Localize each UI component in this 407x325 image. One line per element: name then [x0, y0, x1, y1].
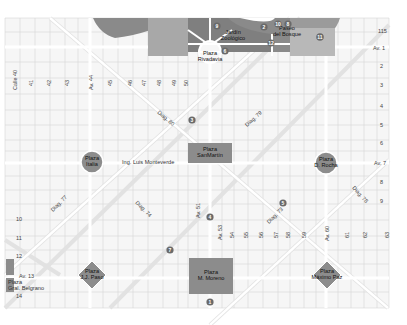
plaza-belgrano-shape	[6, 259, 14, 275]
street-4: 4	[380, 103, 383, 109]
ing-luis-monteverde-label: Ing. Luis Monteverde	[122, 159, 174, 165]
street-58: 58	[285, 232, 291, 238]
svg-text:3: 3	[191, 117, 194, 123]
street-62: 62	[362, 232, 368, 238]
svg-text:4: 4	[209, 214, 212, 220]
street-49: 49	[171, 80, 177, 86]
svg-text:11: 11	[317, 34, 323, 40]
street-10: 10	[16, 216, 22, 222]
street-45: 45	[107, 80, 113, 86]
street-9: 9	[380, 198, 383, 204]
svg-text:12: 12	[268, 40, 274, 46]
svg-text:5: 5	[282, 200, 285, 206]
marker-12[interactable]: 12	[267, 39, 274, 46]
street-av-51: Av. 51	[195, 203, 201, 218]
street-56: 56	[258, 232, 264, 238]
marker-11[interactable]: 11	[316, 33, 324, 41]
street-54: 54	[229, 232, 235, 238]
street-11: 11	[16, 235, 22, 241]
marker-7[interactable]: 7	[166, 246, 173, 253]
street-14: 14	[16, 293, 22, 299]
street-2: 2	[380, 63, 383, 69]
street-av-44: Av. 44	[88, 75, 94, 90]
marker-8[interactable]: 8	[284, 20, 291, 27]
street-calle-40: Calle 40	[12, 70, 18, 90]
marker-6[interactable]: 6	[221, 47, 228, 54]
street-av-53: Av. 53	[217, 225, 223, 240]
street-57: 57	[273, 232, 279, 238]
marker-3[interactable]: 3	[188, 116, 195, 123]
street-6: 6	[380, 140, 383, 146]
street-3: 3	[380, 82, 383, 88]
svg-text:7: 7	[169, 247, 172, 253]
street-115: 115	[378, 28, 387, 34]
street-5: 5	[380, 122, 383, 128]
street-42: 42	[46, 80, 52, 86]
marker-5[interactable]: 5	[279, 199, 286, 206]
street-av-1: Av. 1	[373, 45, 385, 51]
street-59: 59	[301, 232, 307, 238]
street-50: 50	[183, 80, 189, 86]
svg-text:10: 10	[275, 21, 281, 27]
street-41: 41	[28, 80, 34, 86]
street-46: 46	[127, 80, 133, 86]
svg-text:9: 9	[216, 23, 219, 29]
svg-text:2: 2	[263, 24, 266, 30]
svg-text:8: 8	[287, 21, 290, 27]
svg-text:6: 6	[224, 48, 227, 54]
marker-9[interactable]: 9	[213, 22, 220, 29]
marker-4[interactable]: 4	[206, 213, 213, 220]
street-55: 55	[243, 232, 249, 238]
street-47: 47	[141, 80, 147, 86]
street-43: 43	[64, 80, 70, 86]
marker-2[interactable]: 2	[260, 23, 267, 30]
street-av-7: Av. 7	[374, 160, 386, 166]
marker-1[interactable]: 1	[206, 298, 213, 305]
svg-text:1: 1	[209, 299, 212, 305]
street-48: 48	[156, 80, 162, 86]
marker-10[interactable]: 10	[274, 20, 281, 27]
street-61: 61	[344, 232, 350, 238]
street-63: 63	[384, 232, 390, 238]
plaza-italia-label: PlazaItalia	[85, 155, 100, 167]
street-av-60: Av. 60	[324, 226, 330, 241]
city-map: PlazaRivadavia PlazaItalia PlazaSanMartí…	[0, 0, 407, 325]
street-av-13: Av. 13	[19, 273, 34, 279]
street-8: 8	[380, 179, 383, 185]
street-12: 12	[16, 253, 22, 259]
